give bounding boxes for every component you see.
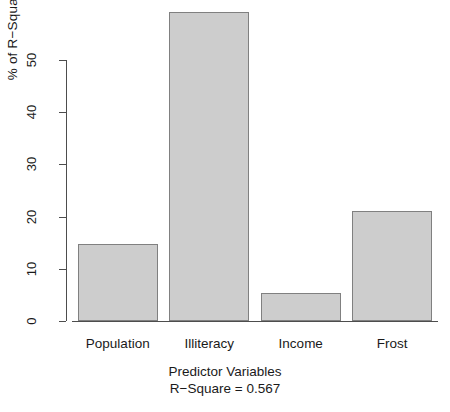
y-tick-5: [59, 60, 66, 61]
r-square-annotation: R−Square = 0.567: [0, 380, 450, 397]
y-tick-2: [59, 217, 66, 218]
y-axis-title: % of R−Square: [2, 0, 24, 193]
y-tick-3: [59, 164, 66, 165]
y-tick-label-1: 10: [25, 249, 39, 289]
bar-illiteracy[interactable]: [169, 12, 249, 321]
x-axis-title: Predictor Variables: [0, 363, 450, 380]
y-tick-label-0: 0: [25, 301, 39, 341]
bar-chart: % of R−Square 0 10 20 30 40 50 Populatio…: [0, 0, 450, 412]
x-tick-label-population: Population: [72, 336, 164, 352]
x-axis-line: [72, 321, 438, 322]
y-tick-label-3: 30: [25, 144, 39, 184]
y-axis-line: [66, 60, 67, 321]
bar-population[interactable]: [78, 244, 158, 321]
y-tick-label-4: 40: [25, 92, 39, 132]
y-tick-4: [59, 112, 66, 113]
y-tick-label-2: 20: [25, 197, 39, 237]
bar-frost[interactable]: [352, 211, 432, 321]
x-tick-label-illiteracy: Illiteracy: [164, 336, 256, 352]
y-tick-0: [59, 321, 66, 322]
y-tick-label-5: 50: [25, 40, 39, 80]
x-tick-label-frost: Frost: [347, 336, 439, 352]
x-tick-label-income: Income: [255, 336, 347, 352]
y-tick-1: [59, 269, 66, 270]
bar-income[interactable]: [261, 293, 341, 321]
